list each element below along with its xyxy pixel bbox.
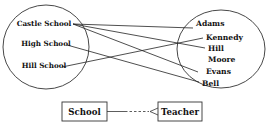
teacher-labels: AdamsKennedyHillMooreEvansBell bbox=[195, 19, 243, 88]
teacher-label: Hill bbox=[208, 44, 224, 53]
teacher-label: Adams bbox=[195, 19, 224, 28]
teacher-label: Evans bbox=[206, 67, 231, 76]
teacher-label: Moore bbox=[208, 55, 236, 64]
mapping-line bbox=[62, 38, 203, 67]
school-teacher-mapping-diagram: Castle SchoolHigh SchoolHill School Adam… bbox=[0, 0, 269, 130]
teacher-label: Bell bbox=[202, 79, 219, 88]
mapping-lines bbox=[62, 24, 205, 82]
mapping-line bbox=[67, 45, 199, 82]
school-label: Castle School bbox=[17, 19, 72, 28]
crows-foot-icon bbox=[150, 108, 158, 115]
school-entity-label: School bbox=[68, 107, 101, 117]
teacher-label: Kennedy bbox=[206, 33, 243, 42]
school-label: High School bbox=[21, 39, 71, 48]
school-labels: Castle SchoolHigh SchoolHill School bbox=[17, 19, 72, 70]
teacher-entity-label: Teacher bbox=[161, 107, 199, 117]
mapping-line bbox=[73, 24, 198, 72]
school-label: Hill School bbox=[22, 61, 67, 70]
